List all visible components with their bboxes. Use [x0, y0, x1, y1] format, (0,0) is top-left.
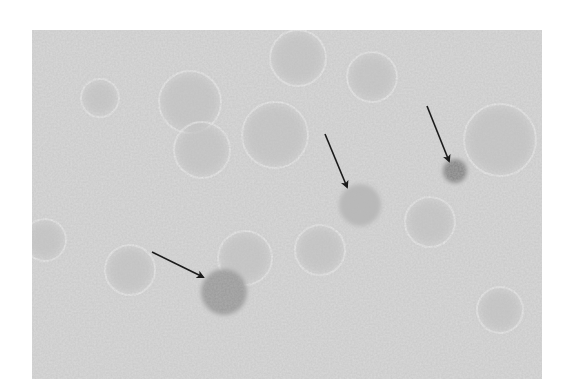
micrograph-figure [0, 0, 571, 392]
micrograph-field [24, 30, 542, 379]
grain-texture [32, 30, 542, 379]
